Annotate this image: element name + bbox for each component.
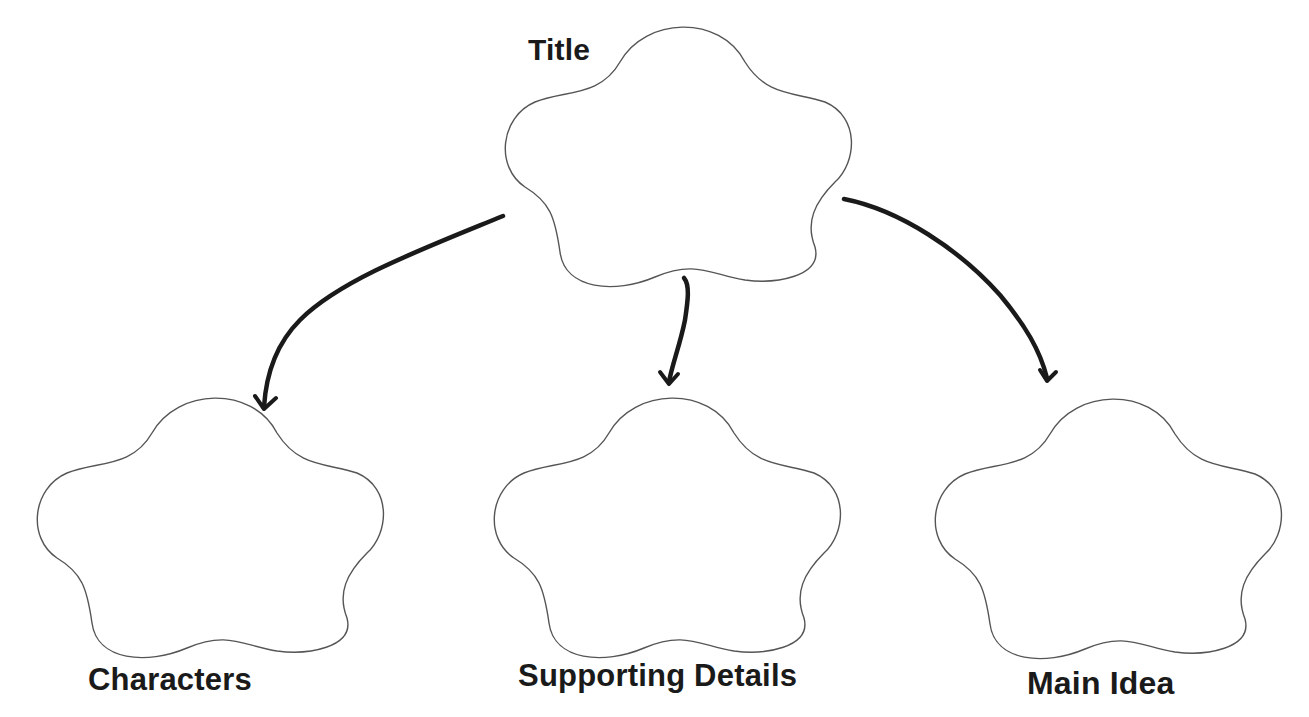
arrow-to-characters [255, 216, 503, 409]
arrow-to-supporting-details [660, 278, 688, 384]
flower-supporting-details [494, 398, 840, 657]
label-main-idea: Main Idea [1027, 665, 1175, 702]
diagram-svg [0, 0, 1309, 717]
flower-main-idea [935, 399, 1281, 658]
label-characters: Characters [88, 662, 252, 698]
flower-characters [37, 398, 383, 657]
label-title: Title [528, 33, 590, 67]
graphic-organizer-canvas: Title Characters Supporting Details Main… [0, 0, 1309, 717]
label-supporting-details: Supporting Details [518, 658, 797, 694]
arrow-to-main-idea [844, 199, 1056, 381]
